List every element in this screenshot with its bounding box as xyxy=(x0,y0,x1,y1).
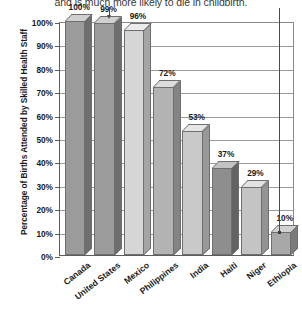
bar-side-face xyxy=(291,225,298,255)
plot-area: 0%10%20%30%40%50%60%70%80%90%100% 100%99… xyxy=(59,22,294,256)
y-axis-tick-label: 30% xyxy=(36,182,53,192)
bar[interactable] xyxy=(241,187,262,255)
y-axis-tick-label: 50% xyxy=(36,135,53,145)
x-axis-label-text: Niger xyxy=(245,260,268,281)
bar[interactable] xyxy=(65,21,86,255)
bar-value-label: 96% xyxy=(130,11,147,21)
y-axis-tick-label: 0% xyxy=(41,252,53,262)
y-axis-tick-label: 60% xyxy=(36,112,53,122)
bar-front-face xyxy=(94,23,115,255)
bar-side-face xyxy=(85,14,92,255)
y-axis-tick-label: 20% xyxy=(36,205,53,215)
bar-series: 100%99%96%72%53%37%29%10% xyxy=(60,23,293,255)
bar-side-face xyxy=(115,17,122,255)
annotation-leader-line xyxy=(279,8,280,231)
figure-caption: and is much more likely to die in childb… xyxy=(0,0,302,8)
bar[interactable] xyxy=(124,30,145,255)
y-axis-title: Percentage of Births Attended by Skilled… xyxy=(19,17,29,247)
y-axis-tick-label: 40% xyxy=(36,158,53,168)
bar-front-face xyxy=(182,131,203,255)
bar-front-face xyxy=(65,21,86,255)
bar-side-face xyxy=(262,180,269,255)
bar-value-label: 29% xyxy=(247,168,264,178)
bar-front-face xyxy=(241,187,262,255)
bar[interactable] xyxy=(212,168,233,255)
y-axis-tick-label: 70% xyxy=(36,88,53,98)
y-axis-tick xyxy=(55,257,60,258)
annotation-arrow-head xyxy=(107,15,111,19)
bar-side-face xyxy=(144,24,151,255)
bar-value-label: 53% xyxy=(188,112,205,122)
annotation-leader-dot xyxy=(278,231,281,234)
bar-front-face xyxy=(124,30,145,255)
bar-side-face xyxy=(232,162,239,255)
y-axis-tick-label: 10% xyxy=(36,229,53,239)
bar-value-label: 100% xyxy=(69,2,90,12)
bar[interactable] xyxy=(94,23,115,255)
y-axis-tick-label: 80% xyxy=(36,65,53,75)
bar[interactable] xyxy=(182,131,203,255)
bar-value-label: 72% xyxy=(159,68,176,78)
chart-figure: and is much more likely to die in childb… xyxy=(0,0,302,325)
x-axis-label-text: Haiti xyxy=(218,260,239,279)
y-axis-tick-label: 90% xyxy=(36,41,53,51)
bar-front-face xyxy=(212,168,233,255)
x-axis-label-text: India xyxy=(188,260,210,280)
bar-side-face xyxy=(174,80,181,255)
y-axis-tick-label: 100% xyxy=(32,18,53,28)
bar-value-label: 37% xyxy=(218,149,235,159)
